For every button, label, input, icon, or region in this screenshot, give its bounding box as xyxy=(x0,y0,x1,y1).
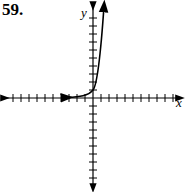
y-axis-label: y xyxy=(79,5,87,20)
x-axis-label: x xyxy=(175,95,182,110)
graph: x y xyxy=(0,0,185,192)
